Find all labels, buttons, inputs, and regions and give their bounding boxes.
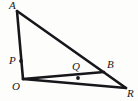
vertex-label-Q: Q: [72, 61, 80, 72]
vertex-label-A: A: [9, 0, 16, 11]
point-marker-P: [19, 59, 23, 63]
vertex-label-P: P: [9, 55, 16, 66]
vertex-label-O: O: [12, 81, 20, 92]
geometry-figure: A P O Q B R: [0, 0, 138, 101]
segment-OB: [23, 72, 104, 79]
figure-canvas: [0, 0, 138, 101]
segment-AO: [17, 11, 23, 79]
segment-group: [17, 11, 126, 88]
vertex-label-B: B: [107, 59, 114, 70]
segment-OR: [23, 79, 126, 88]
point-marker-Q: [76, 76, 80, 80]
vertex-label-R: R: [127, 88, 134, 99]
segment-AR: [17, 11, 126, 88]
